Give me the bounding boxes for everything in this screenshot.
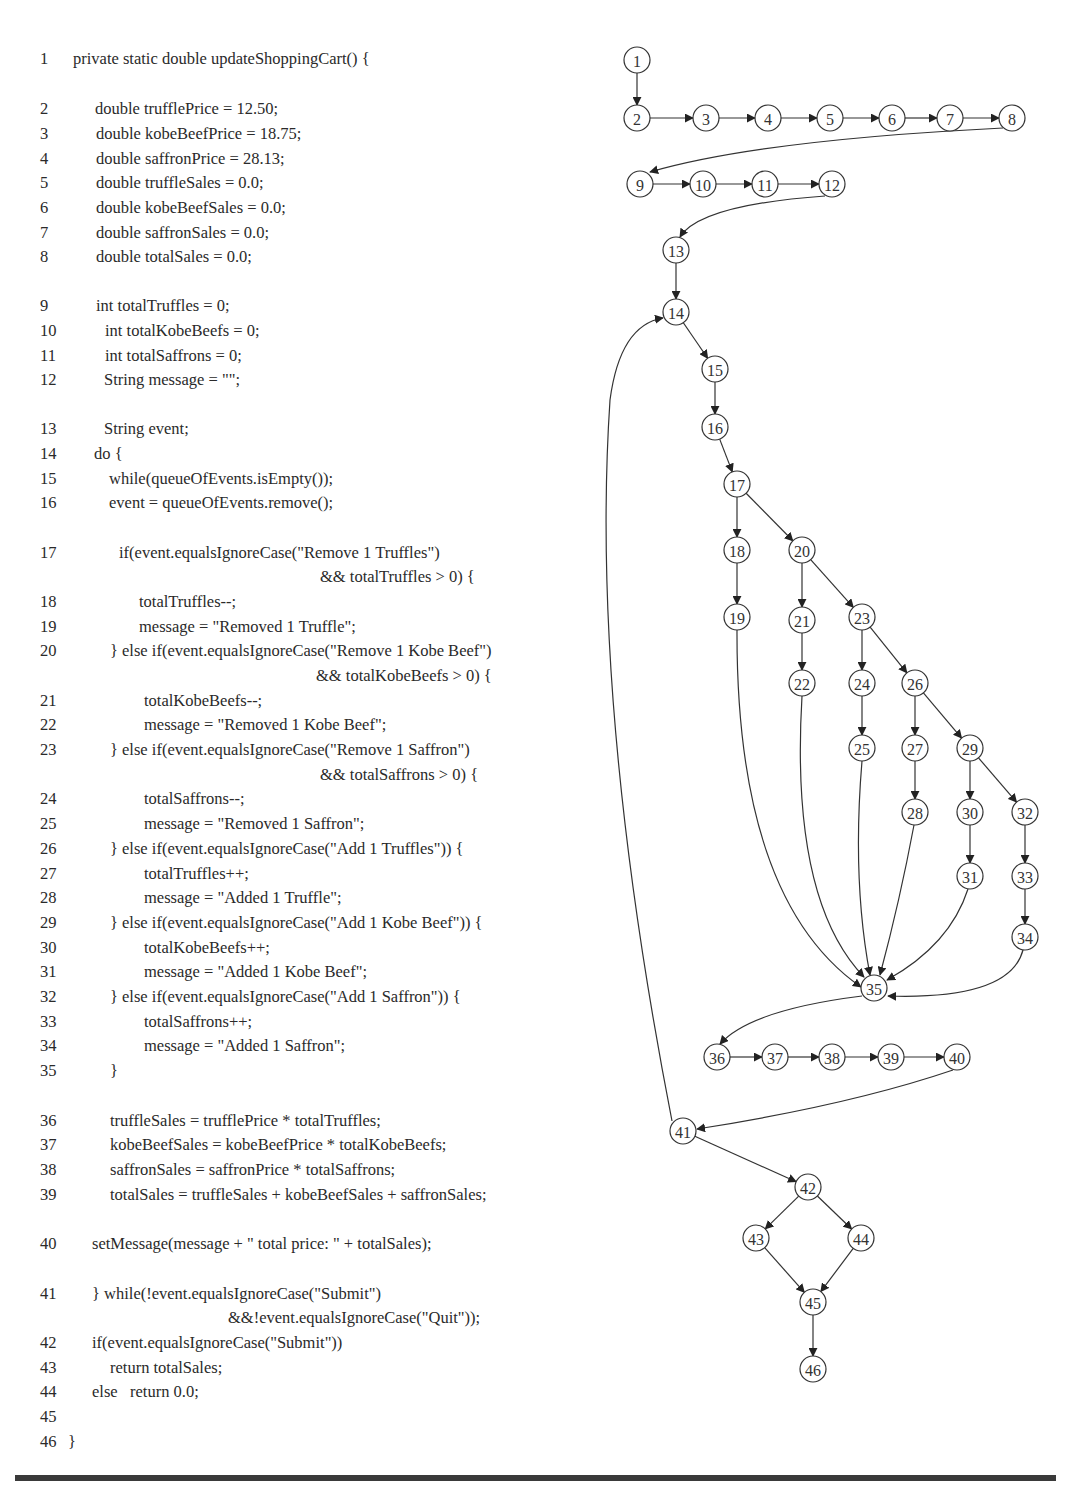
svg-text:15: 15 [707, 362, 723, 379]
graph-node: 8 [999, 105, 1025, 131]
control-flow-graph: 1234567891011121314151617182019212322242… [0, 0, 1071, 1498]
svg-text:13: 13 [668, 243, 684, 260]
svg-text:37: 37 [767, 1050, 783, 1067]
edge-41-42 [695, 1136, 796, 1181]
graph-node: 24 [849, 670, 875, 696]
edge-28-35 [880, 825, 914, 975]
svg-text:6: 6 [888, 111, 896, 128]
svg-text:14: 14 [668, 305, 684, 322]
graph-node: 28 [902, 799, 928, 825]
svg-text:27: 27 [907, 741, 923, 758]
graph-node: 31 [957, 863, 983, 889]
svg-text:22: 22 [794, 676, 810, 693]
svg-text:43: 43 [748, 1231, 764, 1248]
graph-node: 45 [800, 1289, 826, 1315]
graph-node: 46 [800, 1356, 826, 1382]
graph-node: 13 [663, 237, 689, 263]
graph-node: 9 [627, 171, 653, 197]
svg-text:45: 45 [805, 1295, 821, 1312]
svg-text:40: 40 [949, 1050, 965, 1067]
svg-text:11: 11 [757, 177, 772, 194]
graph-node: 17 [724, 471, 750, 497]
edge-31-35 [887, 889, 968, 980]
svg-text:18: 18 [729, 543, 745, 560]
edge-43-45 [765, 1248, 805, 1293]
svg-text:39: 39 [883, 1050, 899, 1067]
graph-edges [606, 73, 1025, 1356]
graph-node: 4 [755, 105, 781, 131]
graph-node: 10 [690, 171, 716, 197]
edge-20-23 [811, 560, 854, 608]
svg-text:29: 29 [962, 741, 978, 758]
svg-text:8: 8 [1008, 111, 1016, 128]
svg-text:33: 33 [1017, 869, 1033, 886]
edge-26-29 [923, 693, 961, 738]
graph-node: 23 [849, 604, 875, 630]
svg-text:23: 23 [854, 610, 870, 627]
svg-text:30: 30 [962, 805, 978, 822]
graph-node: 12 [819, 171, 845, 197]
svg-text:35: 35 [866, 981, 882, 998]
edge-12-13 [680, 196, 825, 237]
svg-text:3: 3 [702, 111, 710, 128]
svg-text:4: 4 [764, 111, 772, 128]
graph-node: 18 [724, 537, 750, 563]
svg-text:32: 32 [1017, 805, 1033, 822]
graph-node: 35 [861, 975, 887, 1001]
graph-node: 38 [819, 1044, 845, 1070]
svg-text:5: 5 [826, 111, 834, 128]
svg-text:34: 34 [1017, 930, 1033, 947]
svg-text:16: 16 [707, 420, 723, 437]
graph-node: 16 [702, 414, 728, 440]
graph-node: 37 [762, 1044, 788, 1070]
graph-node: 43 [743, 1225, 769, 1251]
edge-34-35 [888, 950, 1023, 996]
svg-text:36: 36 [709, 1050, 725, 1067]
graph-node: 22 [789, 670, 815, 696]
svg-text:10: 10 [695, 177, 711, 194]
graph-node: 29 [957, 735, 983, 761]
edge-14-15 [683, 323, 707, 359]
edge-23-26 [870, 627, 907, 673]
edge-44-45 [821, 1248, 853, 1291]
svg-text:9: 9 [636, 177, 644, 194]
svg-text:31: 31 [962, 869, 978, 886]
svg-text:24: 24 [854, 676, 870, 693]
svg-text:28: 28 [907, 805, 923, 822]
graph-node: 3 [693, 105, 719, 131]
graph-node: 33 [1012, 863, 1038, 889]
svg-text:26: 26 [907, 676, 923, 693]
edge-29-32 [978, 758, 1016, 802]
graph-node: 14 [663, 299, 689, 325]
edge-42-44 [817, 1196, 851, 1229]
edge-8-9 [650, 128, 1003, 172]
edge-17-20 [746, 493, 793, 540]
graph-node: 11 [752, 171, 778, 197]
graph-node: 34 [1012, 924, 1038, 950]
graph-node: 20 [789, 537, 815, 563]
graph-node: 30 [957, 799, 983, 825]
graph-node: 32 [1012, 799, 1038, 825]
svg-text:2: 2 [633, 111, 641, 128]
horizontal-rule [15, 1475, 1056, 1481]
graph-node: 42 [795, 1174, 821, 1200]
graph-node: 39 [878, 1044, 904, 1070]
svg-text:38: 38 [824, 1050, 840, 1067]
edge-35-36 [720, 996, 862, 1044]
svg-text:46: 46 [805, 1362, 821, 1379]
graph-node: 40 [944, 1044, 970, 1070]
svg-text:1: 1 [633, 53, 641, 70]
graph-node: 25 [849, 735, 875, 761]
edge-16-17 [720, 439, 733, 472]
svg-text:12: 12 [824, 177, 840, 194]
graph-node: 5 [817, 105, 843, 131]
edge-41-14 [606, 318, 672, 1121]
edge-40-41 [697, 1070, 953, 1129]
graph-node: 6 [879, 105, 905, 131]
svg-text:17: 17 [729, 477, 745, 494]
svg-text:44: 44 [853, 1231, 869, 1248]
svg-text:7: 7 [946, 111, 954, 128]
edge-42-43 [765, 1196, 798, 1229]
graph-node: 26 [902, 670, 928, 696]
graph-node: 41 [670, 1118, 696, 1144]
